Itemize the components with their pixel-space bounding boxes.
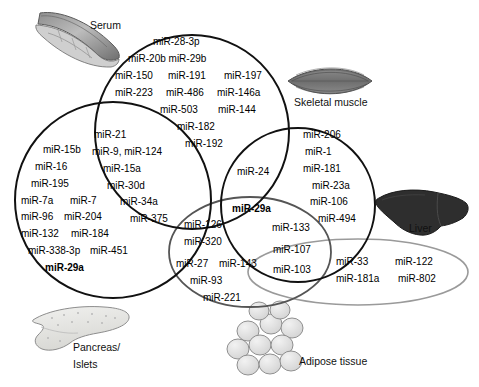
mirna-label: miR-33	[336, 257, 368, 267]
tissue-label-pancreas-line2: Islets	[73, 358, 98, 370]
mirna-label: miR-126	[184, 220, 222, 230]
mirna-label: miR-122	[395, 257, 433, 267]
mirna-label: miR-184	[71, 229, 109, 239]
mirna-label: miR-106	[310, 197, 348, 207]
mirna-label: miR-802	[398, 274, 436, 284]
mirna-label: miR-181	[303, 164, 341, 174]
mirna-label: miR-28-3p	[153, 37, 200, 47]
mirna-label: miR-15a	[103, 164, 141, 174]
mirna-label: miR-16	[35, 162, 67, 172]
mirna-label: miR-192	[185, 139, 223, 149]
tissue-label-liver: Liver	[409, 222, 432, 234]
mirna-label: miR-195	[31, 179, 69, 189]
mirna-label: miR-181a	[336, 274, 379, 284]
mirna-label: miR-197	[224, 71, 262, 81]
mirna-label: miR-206	[303, 130, 341, 140]
mirna-label: miR-223	[115, 88, 153, 98]
mirna-label: miR-20b miR-29b	[128, 54, 206, 64]
mirna-label: miR-338-3p	[28, 246, 80, 256]
mirna-label: miR-1	[305, 147, 332, 157]
mirna-label: miR-29a	[45, 263, 84, 273]
mirna-label: miR-182	[177, 122, 215, 132]
mirna-label: miR-375	[130, 214, 168, 224]
tissue-label-serum: Serum	[90, 19, 121, 31]
mirna-label: miR-143	[219, 259, 257, 269]
mirna-label: miR-7a	[21, 196, 53, 206]
mirna-label: miR-503	[160, 105, 198, 115]
mirna-label: miR-146a	[217, 88, 260, 98]
mirna-label: miR-191	[168, 71, 206, 81]
mirna-label: miR-96	[21, 212, 53, 222]
mirna-label: miR-133	[272, 223, 310, 233]
mirna-label: miR-132	[21, 229, 59, 239]
tissue-label-pancreas-line1: Pancreas/	[73, 341, 120, 353]
mirna-label: miR-320	[184, 237, 222, 247]
venn-diagram-figure: Serum Skeletal muscle Liver Pancreas/ Is…	[0, 0, 479, 387]
mirna-label: miR-24	[237, 167, 269, 177]
mirna-label: miR-21	[94, 130, 126, 140]
mirna-label: miR-29a	[232, 204, 271, 214]
mirna-label: miR-9, miR-124	[92, 147, 162, 157]
mirna-label: miR-23a	[312, 181, 350, 191]
mirna-label: miR-221	[203, 293, 241, 303]
mirna-label: miR-93	[190, 276, 222, 286]
mirna-label: miR-150	[115, 71, 153, 81]
mirna-label: miR-34a	[120, 197, 158, 207]
muscle-fiber-icon	[288, 68, 372, 94]
mirna-label: miR-15b	[43, 145, 81, 155]
mirna-label: miR-27	[176, 259, 208, 269]
mirna-label: miR-204	[64, 212, 102, 222]
mirna-label: miR-30d	[107, 181, 145, 191]
mirna-label: miR-103	[273, 265, 311, 275]
tissue-label-skeletal-muscle: Skeletal muscle	[294, 96, 368, 108]
adipocyte-cluster-icon	[227, 301, 303, 375]
mirna-label: miR-7	[70, 196, 97, 206]
venn-circles-layer	[0, 0, 479, 387]
mirna-label: miR-107	[273, 245, 311, 255]
mirna-label: miR-451	[90, 246, 128, 256]
mirna-label: miR-494	[318, 214, 356, 224]
mirna-label: miR-486	[166, 88, 204, 98]
mirna-label: miR-144	[218, 105, 256, 115]
tissue-label-adipose-tissue: Adipose tissue	[299, 355, 367, 367]
